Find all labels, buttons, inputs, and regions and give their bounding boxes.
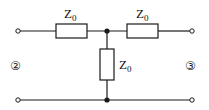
terminal-bottom-right <box>190 98 194 102</box>
junction-top <box>104 28 109 33</box>
label-z-right: Z0 <box>136 7 148 23</box>
label-z-shunt-sub: 0 <box>127 64 132 74</box>
label-z-right-sub: 0 <box>144 13 149 23</box>
label-z-left-sub: 0 <box>72 13 77 23</box>
resistor-right <box>127 24 158 38</box>
terminal-bottom-left <box>16 98 20 102</box>
terminal-top-right <box>190 29 194 33</box>
resistor-left <box>56 24 87 38</box>
t-network-circuit <box>0 0 209 110</box>
label-z-left: Z0 <box>64 7 76 23</box>
label-z-right-main: Z <box>136 6 144 21</box>
label-z-shunt: Z0 <box>119 58 131 74</box>
resistor-shunt <box>100 49 114 80</box>
terminal-top-left <box>16 29 20 33</box>
port-label-left: ② <box>10 60 21 72</box>
port-label-right: ③ <box>185 60 196 72</box>
junction-bottom <box>104 97 109 102</box>
label-z-left-main: Z <box>64 6 72 21</box>
label-z-shunt-main: Z <box>119 57 127 72</box>
